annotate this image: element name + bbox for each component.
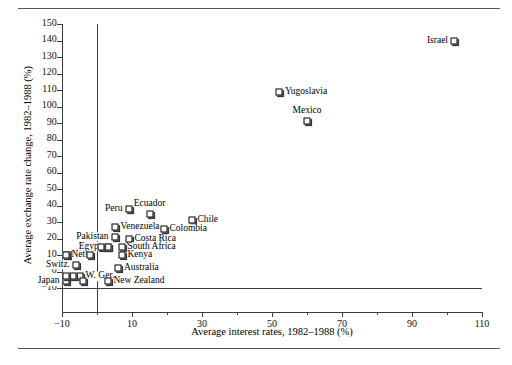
data-point-label: Israel [427, 36, 448, 46]
x-axis-title: Average interest rates, 1982–1988 (%) [62, 327, 482, 338]
y-tick: 140 [57, 41, 63, 42]
y-tick: 90 [57, 123, 63, 124]
data-point-marker[interactable] [118, 243, 125, 250]
y-zero-reference-line [62, 288, 482, 289]
x-minor-tick [447, 312, 448, 315]
data-point-label: Venezuela [121, 222, 160, 232]
data-point-marker[interactable] [87, 252, 94, 259]
x-minor-tick [167, 312, 168, 315]
data-point-marker[interactable] [80, 278, 87, 285]
y-tick: 20 [57, 239, 63, 240]
y-tick: 150 [57, 24, 63, 25]
y-tick: 70 [57, 156, 63, 157]
data-point-marker[interactable] [111, 233, 118, 240]
data-point-marker[interactable] [111, 223, 118, 230]
x-tick [132, 312, 133, 317]
y-tick: 130 [57, 57, 63, 58]
data-point-marker[interactable] [73, 261, 80, 268]
data-point-marker[interactable] [62, 252, 69, 259]
bottom-rule [18, 348, 500, 349]
y-tick-label: 70 [47, 150, 57, 160]
x-minor-tick [237, 312, 238, 315]
data-point-marker[interactable] [276, 88, 283, 95]
y-tick-label: 20 [47, 232, 57, 242]
y-tick: 30 [57, 222, 63, 223]
x-tick [412, 312, 413, 317]
data-point-marker[interactable] [118, 252, 125, 259]
x-tick [62, 312, 63, 317]
y-tick: 60 [57, 173, 63, 174]
y-tick-label: 50 [47, 183, 57, 193]
y-tick: −10 [57, 288, 63, 289]
y-tick: 110 [57, 90, 63, 91]
y-tick: 80 [57, 140, 63, 141]
data-point-label: Australia [124, 263, 159, 273]
y-tick-label: 130 [42, 51, 57, 61]
x-tick [482, 312, 483, 317]
y-axis-title: Average exchange rate change, 1982–1988 … [23, 40, 34, 290]
y-tick-label: 140 [42, 34, 57, 44]
data-point-marker[interactable] [104, 278, 111, 285]
data-point-label: Switz. [46, 260, 70, 270]
y-tick-label: 90 [47, 117, 57, 127]
data-point-label: New Zealand [114, 277, 165, 287]
data-point-label: Japan [38, 277, 60, 287]
x-minor-tick [307, 312, 308, 315]
data-point-label: Ecuador [134, 198, 166, 208]
data-point-label: Mexico [292, 106, 321, 116]
x-tick [202, 312, 203, 317]
data-point-label: Yugoslavia [285, 87, 327, 97]
y-tick-label: 120 [42, 67, 57, 77]
y-tick: 100 [57, 107, 63, 108]
y-tick-label: 10 [47, 249, 57, 259]
data-point-marker[interactable] [69, 273, 76, 280]
data-point-marker[interactable] [146, 210, 153, 217]
top-rule [18, 8, 500, 9]
y-tick-label: 110 [42, 84, 57, 94]
data-point-marker[interactable] [62, 273, 69, 280]
y-tick-label: 80 [47, 133, 57, 143]
scatter-plot-figure: −100102030405060708090100110120130140150… [0, 0, 512, 365]
y-tick-label: 150 [42, 18, 57, 28]
y-tick: 120 [57, 74, 63, 75]
x-tick [342, 312, 343, 317]
data-point-marker[interactable] [115, 265, 122, 272]
data-point-marker[interactable] [160, 225, 167, 232]
plot-area: −100102030405060708090100110120130140150… [62, 24, 482, 288]
y-tick-label: 60 [47, 166, 57, 176]
x-zero-reference-line [97, 24, 98, 312]
data-point-marker[interactable] [104, 243, 111, 250]
x-tick [272, 312, 273, 317]
y-tick-label: 30 [47, 216, 57, 226]
x-minor-tick [377, 312, 378, 315]
y-tick-label: 100 [42, 100, 57, 110]
x-minor-tick [97, 312, 98, 315]
data-point-label: Kenya [128, 250, 153, 260]
y-tick: 50 [57, 189, 63, 190]
y-tick: 40 [57, 206, 63, 207]
y-tick-label: 40 [47, 199, 57, 209]
data-point-label: Peru [105, 204, 122, 214]
data-point-marker[interactable] [97, 243, 104, 250]
data-point-marker[interactable] [304, 118, 311, 125]
data-point-marker[interactable] [451, 37, 458, 44]
data-point-marker[interactable] [125, 205, 132, 212]
